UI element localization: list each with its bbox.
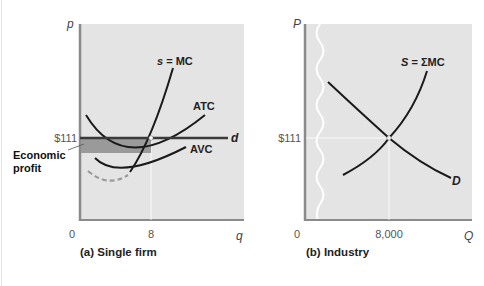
panel-a-x-tick-8: 8 [148, 228, 154, 240]
chart-canvas: p q 0 8 $111 s = MC ATC AVC d Economic p… [0, 0, 484, 286]
atc-label: ATC [193, 100, 215, 112]
panel-b-origin: 0 [294, 228, 300, 240]
panel-a-x-axis-label: q [236, 229, 243, 243]
panel-a-plot-area [80, 24, 244, 220]
panel-b-y-axis-label: P [293, 17, 301, 31]
avc-label: AVC [190, 143, 212, 155]
economic-profit-area [81, 139, 151, 153]
panel-a-y-axis-label: p [66, 17, 74, 31]
panel-b-industry: P Q 0 8,000 $111 S = ΣMC D (b) Industry [278, 17, 473, 258]
economic-profit-label-line2: profit [13, 162, 41, 174]
demand-d-label: d [231, 131, 239, 145]
panel-a-single-firm: p q 0 8 $111 s = MC ATC AVC d Economic p… [13, 17, 244, 258]
market-equilibrium-point [387, 136, 391, 140]
supply-label: S = ΣMC [401, 56, 445, 68]
demand-D-label: D [452, 174, 461, 188]
panel-a-origin: 0 [69, 228, 75, 240]
panel-b-x-axis-label: Q [464, 229, 473, 243]
firm-equilibrium-point [149, 136, 153, 140]
mc-label: s = MC [157, 55, 193, 67]
panel-a-caption: (a) Single firm [80, 246, 157, 258]
panel-b-plot-area [305, 24, 472, 220]
figure: p q 0 8 $111 s = MC ATC AVC d Economic p… [0, 0, 484, 286]
panel-b-y-tick-111: $111 [278, 132, 301, 144]
economic-profit-label-line1: Economic [13, 149, 66, 161]
panel-b-x-tick-8000: 8,000 [375, 228, 403, 240]
panel-a-y-tick-111: $111 [54, 132, 77, 144]
panel-b-caption: (b) Industry [306, 246, 370, 258]
